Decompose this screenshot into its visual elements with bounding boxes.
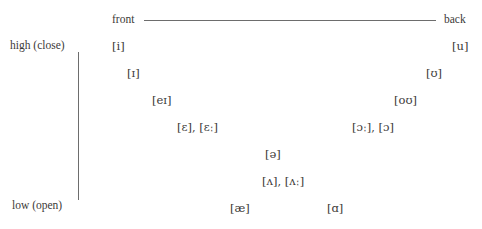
axis-label-high-close: high (close) [10,39,65,52]
vowel-symbol-ou: [oʊ] [394,93,417,107]
vowel-symbol-schwa: [ə] [265,147,281,161]
vowel-symbol-ei: [eɪ] [152,93,171,107]
axis-label-back: back [444,13,466,26]
vowel-symbol-wedge: [ʌ], [ʌː] [262,174,304,188]
high-low-axis-line [78,52,79,200]
vowel-symbol-open-o: [ɔː], [ɔ] [352,120,394,134]
vowel-chart: front back high (close) low (open) [i] [… [0,0,482,229]
vowel-symbol-i: [i] [112,39,125,53]
vowel-symbol-script-a: [ɑ] [327,201,343,215]
axis-label-front: front [112,13,134,26]
front-back-axis-line [144,20,436,21]
vowel-symbol-small-cap-i: [ɪ] [127,66,140,80]
vowel-symbol-u: [u] [452,39,468,53]
vowel-symbol-ash: [æ] [230,201,250,215]
vowel-symbol-epsilon: [ɛ], [ɛː] [177,120,218,134]
axis-label-low-open: low (open) [12,199,62,212]
vowel-symbol-upsilon: [ʊ] [426,66,442,80]
